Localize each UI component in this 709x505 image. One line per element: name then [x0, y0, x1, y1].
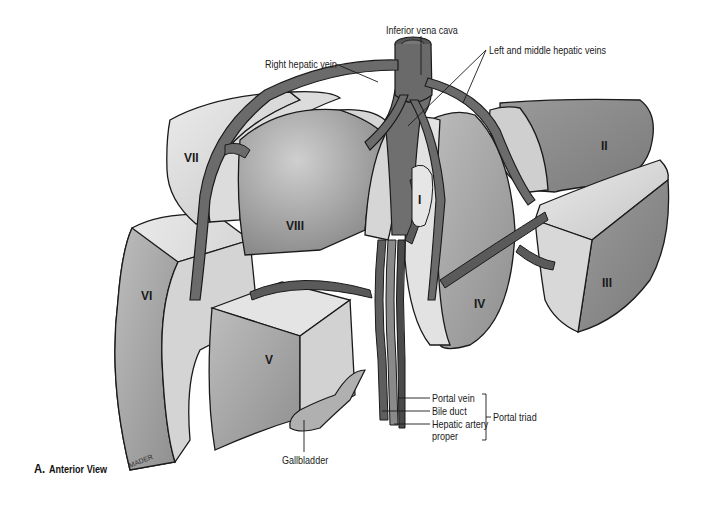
segment-label-i: I [418, 193, 421, 207]
segment-label-vii: VII [184, 151, 199, 165]
label-right-hepatic-vein: Right hepatic vein [265, 58, 337, 70]
label-bile-duct: Bile duct [432, 405, 467, 417]
label-portal-triad: Portal triad [493, 411, 537, 423]
label-portal-vein: Portal vein [432, 392, 475, 404]
caption-title: Anterior View [49, 463, 107, 475]
segment-v-lobe [209, 282, 355, 450]
label-hepatic-artery-proper-line2: proper [432, 430, 458, 442]
segment-viii-lobe [238, 109, 395, 255]
segment-label-ii: II [601, 139, 608, 153]
label-hepatic-artery-proper: Hepatic artery [432, 418, 488, 430]
label-inferior-vena-cava: Inferior vena cava [386, 24, 458, 36]
segment-label-vi: VI [141, 289, 152, 303]
liver-segments-diagram: VII VIII VI V I IV II III MADER [0, 0, 709, 505]
segment-label-iii: III [602, 276, 612, 290]
segment-label-viii: VIII [286, 219, 304, 233]
caption-letter: A. [34, 461, 45, 476]
figure-caption: A. Anterior View [34, 459, 107, 477]
label-left-middle-hepatic-veins: Left and middle hepatic veins [489, 44, 606, 56]
label-gallbladder: Gallbladder [282, 454, 328, 466]
segment-label-iv: IV [474, 297, 485, 311]
segment-label-v: V [265, 353, 273, 367]
